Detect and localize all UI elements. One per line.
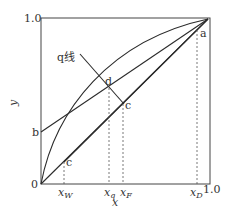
x-right-tick: 1.0 bbox=[203, 183, 221, 196]
y-axis-label: y bbox=[7, 99, 20, 107]
xq-label: xq bbox=[104, 186, 115, 200]
rectifying-operating-line bbox=[41, 19, 208, 132]
mccabe-thiele-diagram: 1.0 0 1.0 y x xW xq xF xD a b d c c q线 bbox=[0, 0, 228, 213]
q-line bbox=[80, 54, 124, 104]
point-d-label: d bbox=[105, 75, 112, 88]
point-c-lower-label: c bbox=[66, 156, 72, 169]
point-a-label: a bbox=[200, 27, 207, 40]
xd-label: xD bbox=[190, 186, 203, 200]
q-line-label: q线 bbox=[57, 50, 75, 64]
point-b-label: b bbox=[32, 126, 39, 139]
xf-label: xF bbox=[120, 186, 132, 200]
point-c-upper-label: c bbox=[125, 99, 131, 112]
y-top-tick: 1.0 bbox=[24, 12, 42, 25]
origin-tick: 0 bbox=[31, 178, 38, 191]
xw-label: xW bbox=[58, 186, 73, 200]
